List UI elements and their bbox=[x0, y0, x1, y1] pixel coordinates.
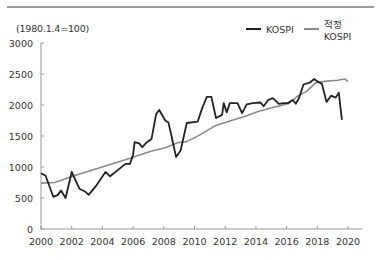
y-tick-label: 2000 bbox=[9, 100, 33, 111]
x-tick-label: 2004 bbox=[90, 236, 114, 247]
series-fair-kospi-line bbox=[41, 79, 348, 183]
y-tick-label: 500 bbox=[15, 193, 33, 204]
y-tick-label: 1500 bbox=[9, 131, 33, 142]
x-tick-label: 2008 bbox=[152, 236, 176, 247]
x-tick-label: 2002 bbox=[60, 236, 84, 247]
line-chart: 0500100015002000250030002000200220042006… bbox=[0, 0, 382, 260]
x-tick-label: 2012 bbox=[213, 236, 237, 247]
x-tick-label: 2010 bbox=[182, 236, 206, 247]
y-tick-label: 2500 bbox=[9, 69, 33, 80]
x-tick-label: 2020 bbox=[336, 236, 360, 247]
x-tick-label: 2018 bbox=[305, 236, 329, 247]
x-tick-label: 2000 bbox=[29, 236, 53, 247]
x-tick-label: 2014 bbox=[244, 236, 268, 247]
y-tick-label: 1000 bbox=[9, 162, 33, 173]
x-tick-label: 2016 bbox=[275, 236, 299, 247]
y-tick-label: 3000 bbox=[9, 38, 33, 49]
x-tick-label: 2006 bbox=[121, 236, 145, 247]
chart-series bbox=[41, 79, 348, 198]
y-tick-label: 0 bbox=[27, 224, 33, 235]
